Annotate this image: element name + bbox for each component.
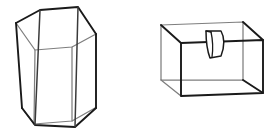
wireframe-solids-svg — [0, 0, 273, 132]
hexagonal-prism-hidden-edges — [16, 23, 96, 124]
prism-front-vertical-right — [75, 7, 78, 127]
open-box — [161, 22, 263, 96]
figure-canvas: Two wireframe geometric solids Hexagonal… — [0, 0, 273, 132]
box-depth-top-right — [243, 22, 263, 40]
hexagonal-prism-outline — [16, 7, 96, 127]
prism-front-vertical-left — [35, 10, 40, 125]
box-depth-bottom-left — [161, 80, 181, 96]
box-back-rect — [161, 22, 243, 80]
open-box-back-face — [161, 22, 243, 80]
prism-silhouette-left — [16, 23, 22, 108]
prism-back-top-edge — [16, 23, 96, 50]
box-depth-bottom-right — [243, 80, 263, 93]
flap-outline — [206, 31, 224, 58]
box-depth-top-left — [161, 25, 181, 43]
prism-top-front-edges — [16, 7, 96, 34]
folded-flap — [206, 31, 224, 58]
prism-bottom-front-edges — [22, 108, 96, 127]
hexagonal-prism — [16, 7, 96, 127]
